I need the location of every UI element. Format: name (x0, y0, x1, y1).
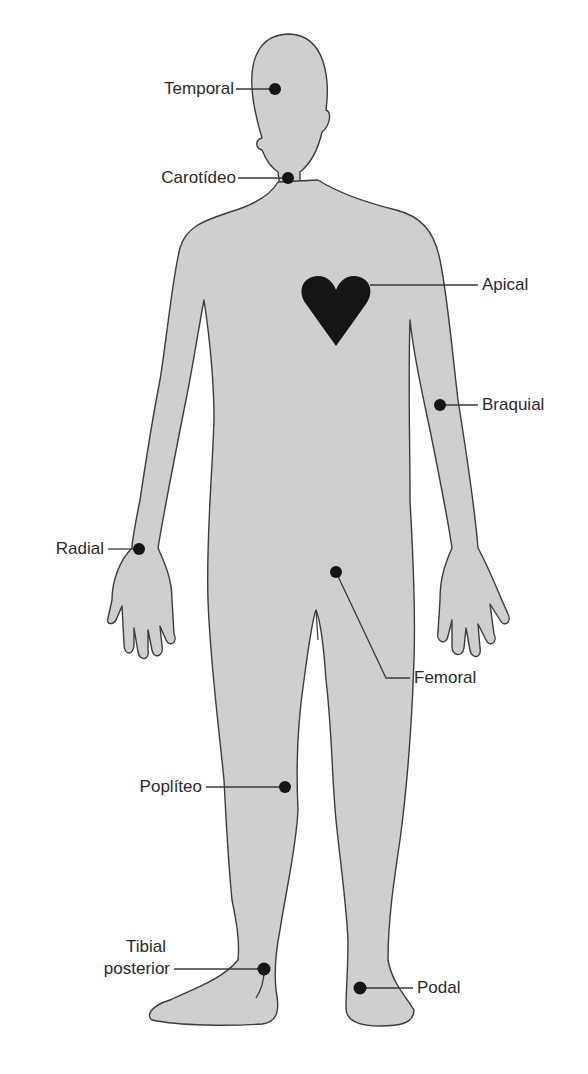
body-silhouette (0, 0, 588, 1074)
label-temporal: Temporal (164, 79, 234, 99)
label-pedal: Podal (417, 978, 460, 998)
label-tibial-line1: Tibial (126, 937, 166, 957)
head-shape (252, 34, 330, 197)
radial-marker (133, 543, 145, 555)
pulse-points-diagram: Temporal Carotídeo Apical Braquial Radia… (0, 0, 588, 1074)
label-radial: Radial (56, 539, 104, 559)
brachial-marker (434, 399, 446, 411)
label-femoral: Femoral (414, 668, 476, 688)
label-popliteal: Poplíteo (140, 777, 202, 797)
temporal-marker (269, 83, 281, 95)
carotid-marker (282, 172, 294, 184)
label-tibial-line2: posterior (104, 959, 170, 979)
label-apical: Apical (482, 275, 528, 295)
posterior-tibial-marker (258, 963, 271, 976)
popliteal-marker (279, 781, 291, 793)
pedal-marker (354, 982, 367, 995)
femoral-marker (330, 566, 342, 578)
label-carotid: Carotídeo (161, 168, 236, 188)
label-brachial: Braquial (482, 395, 544, 415)
